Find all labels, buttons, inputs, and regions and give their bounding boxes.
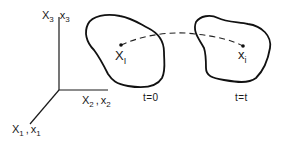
axis-1-separator: ,	[26, 123, 29, 135]
particle-trajectory	[121, 33, 243, 46]
reference-time-label: t=0	[143, 93, 159, 103]
axis-2-spatial-index: 2	[106, 100, 110, 109]
current-time-label: t=t	[235, 93, 248, 103]
current-point-index: i	[245, 55, 247, 65]
axis-1-label: X1,x1	[12, 124, 41, 138]
current-point-label: xi	[238, 48, 247, 65]
reference-point-symbol: X	[115, 48, 124, 63]
reference-point-index: I	[124, 56, 127, 66]
axis-3-material-index: 3	[49, 15, 53, 24]
axis-1-spatial-index: 1	[36, 129, 40, 138]
axis-1-diagonal	[30, 90, 59, 124]
point-reference	[119, 43, 123, 47]
body-current-configuration	[195, 16, 270, 82]
axis-1-material-index: 1	[19, 129, 23, 138]
axis-3-label: X3x3	[42, 10, 70, 24]
axis-3-spatial-index: 3	[65, 15, 69, 24]
axis-2-material-index: 2	[89, 100, 93, 109]
reference-point-label: XI	[115, 49, 126, 66]
axis-2-separator: ,	[96, 94, 99, 106]
axis-2-label: X2,x2	[82, 95, 111, 109]
